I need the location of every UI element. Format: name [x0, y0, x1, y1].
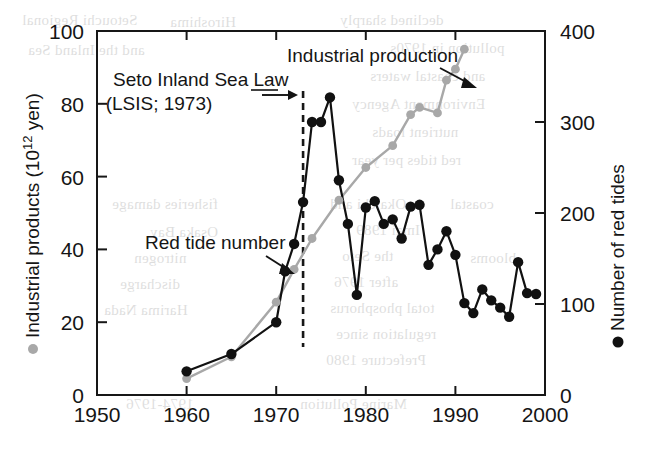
y-axis-right-title: Number of red tides	[607, 164, 628, 331]
data-point	[361, 163, 370, 172]
annotation-industrial-production-text: Industrial production	[287, 45, 458, 66]
y-axis-left-tick-labels: 020406080100	[49, 20, 84, 407]
data-point	[396, 233, 406, 243]
data-point	[433, 109, 442, 118]
data-point	[459, 298, 469, 308]
annotation-seto-law-arrowhead	[288, 90, 298, 100]
data-point	[271, 317, 281, 327]
data-point	[415, 103, 424, 112]
data-point	[298, 197, 308, 207]
y-tick-label-right: 300	[560, 111, 595, 134]
data-point	[442, 76, 451, 85]
data-point	[477, 284, 487, 294]
data-point	[316, 117, 326, 127]
y-axis-left-title-group: Industrial products (1012 yen)	[20, 93, 43, 354]
annotation-seto-law-line2: (LSIS; 1973)	[106, 93, 213, 114]
data-point	[414, 200, 424, 210]
y-tick-label-right: 0	[560, 384, 572, 407]
data-point	[361, 202, 371, 212]
annotation-red-tide-number: Red tide number	[145, 232, 295, 274]
data-point	[468, 308, 478, 318]
y-tick-label-right: 400	[560, 20, 595, 43]
x-axis-tick-labels: 195019601970198019902000	[74, 403, 569, 426]
data-point	[352, 290, 362, 300]
chart-plot-area: 195019601970198019902000 020406080100 01…	[0, 0, 646, 450]
data-point	[289, 239, 299, 249]
data-point	[334, 175, 344, 185]
y-axis-right-ticks	[535, 122, 545, 304]
x-tick-label: 1980	[342, 403, 389, 426]
y-tick-label-left: 60	[61, 166, 84, 189]
annotation-industrial-production-arrowhead	[461, 77, 477, 88]
data-point	[406, 110, 415, 119]
y-tick-label-left: 0	[72, 384, 84, 407]
y-tick-label-left: 20	[61, 311, 84, 334]
data-point	[486, 295, 496, 305]
data-point	[272, 298, 281, 307]
x-tick-label: 1990	[432, 403, 479, 426]
data-point	[181, 366, 191, 376]
y-axis-right-title-group: Number of red tides	[607, 164, 628, 347]
y-axis-left-title: Industrial products (1012 yen)	[20, 93, 43, 338]
x-tick-label: 1970	[253, 403, 300, 426]
data-point	[441, 226, 451, 236]
y-tick-label-right: 100	[560, 293, 595, 316]
data-point	[388, 141, 397, 150]
data-point	[495, 302, 505, 312]
y-tick-label-left: 100	[49, 20, 84, 43]
data-point	[513, 257, 523, 267]
x-tick-label: 1960	[163, 403, 210, 426]
data-point	[450, 250, 460, 260]
data-point	[370, 196, 380, 206]
data-point	[531, 289, 541, 299]
y-axis-right-tick-labels: 0100200300400	[560, 20, 595, 407]
data-point	[460, 45, 469, 54]
figure-red-tides-industrial-production: 195019601970198019902000 020406080100 01…	[0, 0, 646, 450]
left-axis-legend-dot-icon	[28, 344, 38, 354]
data-point	[522, 288, 532, 298]
data-point	[405, 201, 415, 211]
annotation-seto-inland-sea-law: Seto Inland Sea Law (LSIS; 1973)	[106, 69, 298, 114]
data-point	[387, 214, 397, 224]
data-point	[432, 244, 442, 254]
data-point	[504, 312, 514, 322]
data-point	[379, 219, 389, 229]
right-axis-legend-dot-icon	[613, 337, 624, 348]
data-point	[307, 117, 317, 127]
data-point	[226, 349, 236, 359]
annotation-seto-law-line1: Seto Inland Sea Law	[113, 69, 289, 90]
y-tick-label-right: 200	[560, 202, 595, 225]
annotation-red-tide-number-text: Red tide number	[145, 232, 286, 253]
data-point	[423, 260, 433, 270]
data-point	[343, 219, 353, 229]
data-point	[451, 65, 460, 74]
data-point	[335, 196, 344, 205]
data-point	[308, 234, 317, 243]
y-tick-label-left: 80	[61, 93, 84, 116]
y-axis-left-ticks	[97, 104, 107, 322]
data-point	[325, 92, 335, 102]
y-tick-label-left: 40	[61, 238, 84, 261]
